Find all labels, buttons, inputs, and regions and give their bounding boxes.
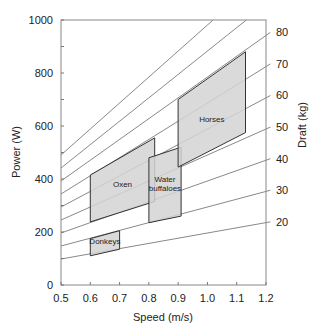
region-label: buffaloes bbox=[149, 184, 181, 193]
y-tick-label: 400 bbox=[35, 173, 53, 185]
region-label: Oxen bbox=[113, 180, 132, 189]
region-horses bbox=[178, 52, 245, 167]
animal-regions: DonkeysOxenWaterbuffaloesHorses bbox=[89, 52, 245, 256]
y-tick-label: 200 bbox=[35, 226, 53, 238]
draft-axis-label: Draft (kg) bbox=[296, 102, 308, 148]
draft-tick-label: 60 bbox=[276, 89, 288, 101]
power-speed-chart: DonkeysOxenWaterbuffaloesHorses 0.50.60.… bbox=[0, 0, 320, 330]
draft-tick-label: 30 bbox=[276, 184, 288, 196]
y-tick-label: 600 bbox=[35, 120, 53, 132]
chart-canvas: DonkeysOxenWaterbuffaloesHorses 0.50.60.… bbox=[0, 0, 320, 330]
y-tick-label: 1000 bbox=[29, 14, 53, 26]
x-tick-label: 1.2 bbox=[258, 292, 273, 304]
x-axis-label: Speed (m/s) bbox=[133, 311, 193, 323]
region-label: Donkeys bbox=[89, 237, 120, 246]
y-tick-label: 800 bbox=[35, 67, 53, 79]
draft-tick-label: 40 bbox=[276, 153, 288, 165]
draft-tick-label: 20 bbox=[276, 216, 288, 228]
x-tick-label: 1.1 bbox=[229, 292, 244, 304]
x-tick-label: 0.5 bbox=[53, 292, 68, 304]
y-tick-label: 0 bbox=[47, 279, 53, 291]
draft-tick-label: 80 bbox=[276, 26, 288, 38]
draft-tick-label: 50 bbox=[276, 121, 288, 133]
x-tick-label: 0.7 bbox=[112, 292, 127, 304]
region-label: Water bbox=[154, 175, 175, 184]
draft-tick-label: 70 bbox=[276, 58, 288, 70]
x-tick-label: 0.9 bbox=[170, 292, 185, 304]
x-tick-label: 1.0 bbox=[200, 292, 215, 304]
y-axis: 02004006008001000 bbox=[29, 14, 64, 291]
x-tick-label: 0.6 bbox=[83, 292, 98, 304]
draft-axis: 20304050607080 bbox=[276, 26, 288, 228]
region-label: Horses bbox=[199, 115, 224, 124]
x-tick-label: 0.8 bbox=[141, 292, 156, 304]
y-axis-label: Power (W) bbox=[10, 126, 22, 178]
